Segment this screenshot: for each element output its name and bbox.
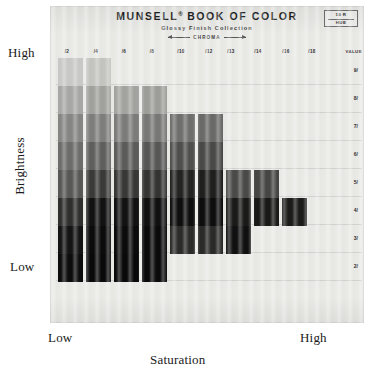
color-chip [170,142,195,170]
color-chip [198,226,223,254]
color-chip [254,198,279,226]
saturation-axis-title: Saturation [150,352,205,368]
color-chip [114,170,139,198]
color-chip [142,170,167,198]
color-chip-grid [50,6,364,323]
munsell-chart-page: High Brightness Low Low High Saturation … [0,0,370,376]
color-chip [170,114,195,142]
color-chip [198,114,223,142]
color-chip [114,142,139,170]
color-chip [170,226,195,254]
color-chip [86,198,111,226]
color-chip [86,226,111,254]
color-chip [170,170,195,198]
color-chip [142,226,167,254]
color-chip [58,114,83,142]
color-chip [86,254,111,282]
color-chip [114,198,139,226]
color-chip [86,86,111,114]
color-chip [114,114,139,142]
color-chip [58,254,83,282]
color-chip [142,198,167,226]
color-chip [86,114,111,142]
color-chip [226,170,251,198]
color-chip [226,226,251,254]
color-chip [226,198,251,226]
color-chip [142,114,167,142]
color-chip [170,198,195,226]
color-chip [254,170,279,198]
color-chip [142,142,167,170]
color-chip [86,142,111,170]
color-chip [282,198,307,226]
brightness-low-label: Low [10,259,34,275]
color-chip [114,254,139,282]
munsell-page-card: MUNSELL® BOOK OF COLOR Glossy Finish Col… [50,6,364,323]
color-chip [58,58,83,86]
color-chip [198,170,223,198]
saturation-low-label: Low [48,330,72,346]
color-chip [58,142,83,170]
color-chip [58,86,83,114]
color-chip [142,86,167,114]
saturation-high-label: High [300,330,327,346]
color-chip [142,254,167,282]
color-chip [86,58,111,86]
color-chip [58,198,83,226]
color-chip [86,170,111,198]
color-chip [114,226,139,254]
brightness-axis-title: Brightness [12,126,28,206]
color-chip [198,142,223,170]
color-chip [198,198,223,226]
color-chip [58,170,83,198]
brightness-high-label: High [8,45,35,61]
color-chip [58,226,83,254]
color-chip [114,86,139,114]
